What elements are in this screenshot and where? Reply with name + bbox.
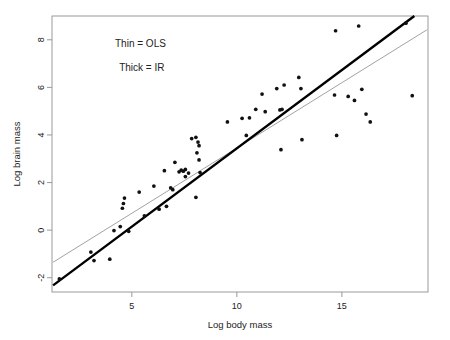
data-point: [92, 259, 96, 263]
data-point: [280, 107, 284, 111]
legend-annotation: Thick = IR: [119, 62, 164, 73]
scatter-plot-figure: 51015-202468 Thin = OLSThick = IR Log bo…: [0, 0, 450, 340]
data-point: [89, 250, 93, 254]
data-point: [165, 204, 169, 208]
data-point: [334, 29, 338, 33]
data-point: [346, 95, 350, 99]
data-point: [137, 190, 141, 194]
data-point: [410, 94, 414, 98]
plot-canvas: 51015-202468 Thin = OLSThick = IR Log bo…: [0, 0, 450, 340]
y-tick-label: 2: [36, 180, 46, 185]
data-point: [260, 92, 264, 96]
y-axis-label: Log brain mass: [11, 121, 22, 186]
y-tick-label: 8: [36, 37, 46, 42]
data-point: [57, 277, 61, 281]
data-point: [184, 175, 188, 179]
data-point: [240, 116, 244, 120]
data-point: [112, 229, 116, 233]
data-point: [118, 225, 122, 229]
data-point: [300, 138, 304, 142]
data-point: [364, 112, 368, 116]
data-point: [263, 110, 267, 114]
data-point: [244, 134, 248, 138]
data-point: [122, 202, 126, 206]
x-axis-label: Log body mass: [208, 319, 273, 330]
data-point: [226, 120, 230, 124]
x-tick-label: 10: [232, 301, 242, 311]
data-point: [184, 168, 188, 172]
data-point: [152, 184, 156, 188]
data-point: [335, 134, 339, 138]
data-point: [173, 160, 177, 164]
y-tick-label: 4: [36, 132, 46, 137]
data-point: [279, 148, 283, 152]
y-tick-label: 6: [36, 85, 46, 90]
data-point: [194, 135, 198, 139]
data-point: [353, 99, 357, 103]
x-tick-label: 5: [129, 301, 134, 311]
data-point: [275, 87, 279, 91]
data-point: [121, 206, 125, 210]
data-point: [187, 171, 191, 175]
data-point: [248, 116, 252, 120]
data-point: [404, 21, 408, 25]
data-point: [123, 196, 127, 200]
y-tick-label: -2: [36, 274, 46, 282]
data-point: [282, 83, 286, 87]
data-point: [143, 214, 147, 218]
y-tick-label: 0: [36, 228, 46, 233]
data-point: [171, 188, 175, 192]
data-point: [108, 257, 112, 261]
figure-background: [0, 0, 450, 340]
data-point: [194, 195, 198, 199]
data-point: [196, 140, 200, 144]
data-point: [357, 24, 361, 28]
x-tick-label: 15: [337, 301, 347, 311]
data-point: [127, 229, 131, 233]
data-point: [254, 107, 258, 111]
data-point: [297, 76, 301, 80]
legend-annotation: Thin = OLS: [115, 38, 166, 49]
data-point: [163, 169, 167, 173]
data-point: [197, 158, 201, 162]
data-point: [195, 151, 199, 155]
data-point: [360, 87, 364, 91]
data-point: [299, 87, 303, 91]
data-point: [333, 93, 337, 97]
data-point: [157, 207, 161, 211]
data-point: [197, 144, 201, 148]
data-point: [190, 137, 194, 141]
data-point: [368, 120, 372, 124]
data-point: [198, 171, 202, 175]
